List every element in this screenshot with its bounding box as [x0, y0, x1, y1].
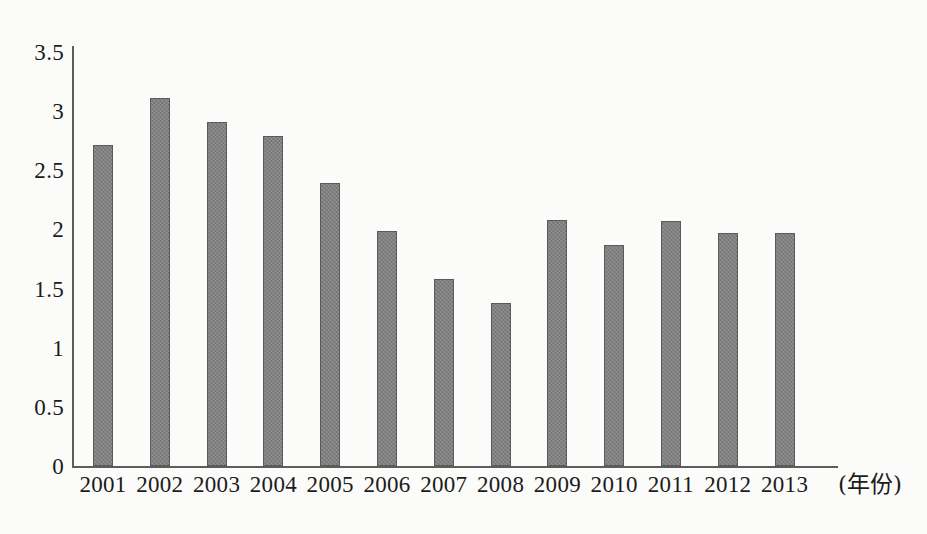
y-axis-tick-label: 2 — [10, 218, 64, 241]
y-axis-tick-label: 3 — [10, 100, 64, 123]
bar-2005 — [320, 183, 340, 466]
x-axis-tick-label: 2013 — [750, 472, 820, 497]
y-axis-tick-labels: 3.532.521.510.50 — [0, 0, 64, 534]
y-axis-tick-label: 0 — [10, 455, 64, 478]
y-axis-tick-label: 0.5 — [10, 395, 64, 418]
bar-chart: 3.532.521.510.50 20012002200320042005200… — [0, 0, 927, 534]
y-axis-tick-label: 3.5 — [10, 41, 64, 64]
bar-2004 — [263, 136, 283, 466]
plot-area: 2001200220032004200520062007200820092010… — [74, 0, 838, 534]
bar-2006 — [377, 231, 397, 466]
x-axis-unit-label: (年份) — [838, 472, 902, 497]
bar-2002 — [150, 98, 170, 466]
bar-2013 — [775, 233, 795, 466]
y-axis-tick-label: 2.5 — [10, 159, 64, 182]
y-axis-tick-label: 1.5 — [10, 277, 64, 300]
y-axis-tick-label: 1 — [10, 336, 64, 359]
bar-2008 — [491, 303, 511, 466]
bar-2011 — [661, 221, 681, 466]
bar-2003 — [207, 122, 227, 466]
bar-2012 — [718, 233, 738, 466]
bar-2007 — [434, 279, 454, 466]
bar-2010 — [604, 245, 624, 466]
bar-2001 — [93, 145, 113, 466]
bar-2009 — [547, 220, 567, 466]
